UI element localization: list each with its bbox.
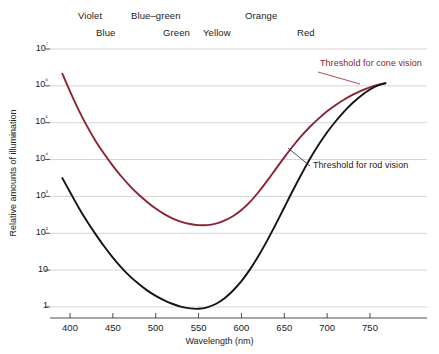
- x-tick-500: 500: [136, 322, 176, 333]
- cone-annotation-label: Threshold for cone vision: [320, 58, 422, 68]
- x-tick-labels: 400450500550600650700750: [0, 0, 439, 354]
- x-tick-600: 600: [221, 322, 261, 333]
- x-tick-550: 550: [179, 322, 219, 333]
- figure-container: VioletBlue–greenOrange BlueGreenYellowRe…: [0, 0, 439, 354]
- x-tick-750: 750: [350, 322, 390, 333]
- x-tick-650: 650: [264, 322, 304, 333]
- x-tick-450: 450: [93, 322, 133, 333]
- x-axis-title: Wavelength (nm): [0, 336, 439, 346]
- rod-annotation-label: Threshold for rod vision: [313, 160, 408, 170]
- x-tick-700: 700: [307, 322, 347, 333]
- x-tick-400: 400: [50, 322, 90, 333]
